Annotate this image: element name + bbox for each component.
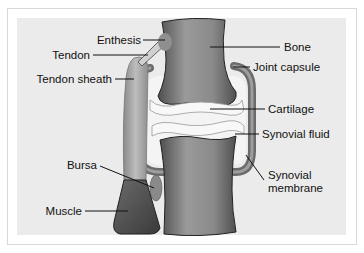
label-synovial-membrane-line2: membrane (268, 182, 323, 194)
enthesis (158, 33, 172, 51)
label-joint-capsule: Joint capsule (253, 61, 320, 73)
label-bone: Bone (284, 41, 311, 53)
lower-bone (160, 136, 236, 236)
label-enthesis: Enthesis (97, 34, 141, 46)
label-muscle: Muscle (46, 205, 82, 217)
label-cartilage: Cartilage (268, 103, 314, 115)
label-tendon: Tendon (52, 49, 90, 61)
bursa (150, 175, 162, 201)
label-bursa: Bursa (67, 159, 98, 171)
joint-diagram: Enthesis Tendon Tendon sheath Bone Joint… (0, 0, 364, 253)
label-tendon-sheath: Tendon sheath (37, 73, 112, 85)
tendon-sheath (123, 57, 148, 182)
label-synovial-fluid: Synovial fluid (262, 128, 330, 140)
upper-bone (158, 18, 236, 106)
label-synovial-membrane-line1: Synovial (268, 169, 311, 181)
